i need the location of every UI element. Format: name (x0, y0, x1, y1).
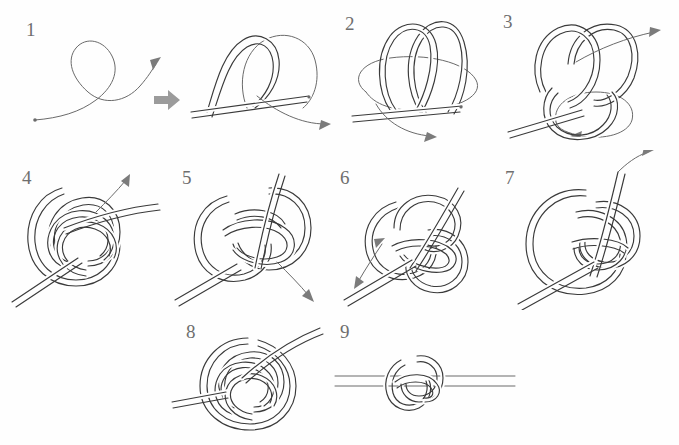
knot-illustration-3 (490, 0, 679, 155)
knot-illustration-4 (0, 150, 175, 310)
knot-illustration-8 (170, 310, 335, 445)
step-panel-8: 8 (170, 310, 335, 445)
step-panel-1b (185, 0, 340, 150)
knot-illustration-2 (330, 0, 500, 155)
start-dot-1 (33, 118, 37, 122)
transition-right-arrow (152, 88, 182, 112)
step-panel-3: 3 (490, 0, 679, 155)
right-arrow-icon (154, 90, 180, 110)
step-panel-4: 4 (0, 150, 175, 310)
step-panel-2: 2 (330, 0, 500, 155)
step-panel-9: 9 (325, 310, 525, 445)
knot-illustration-1 (0, 0, 175, 150)
step-panel-6: 6 (330, 150, 500, 310)
knot-illustration-5 (165, 150, 340, 310)
illustration-sheet: 1 (0, 0, 679, 445)
step-panel-1: 1 (0, 0, 175, 150)
knot-illustration-7 (490, 150, 679, 310)
knot-illustration-1b (185, 0, 340, 150)
knot-illustration-9 (325, 310, 525, 445)
knot-illustration-6 (330, 150, 500, 310)
step-panel-5: 5 (165, 150, 340, 310)
step-panel-7: 7 (490, 150, 679, 310)
